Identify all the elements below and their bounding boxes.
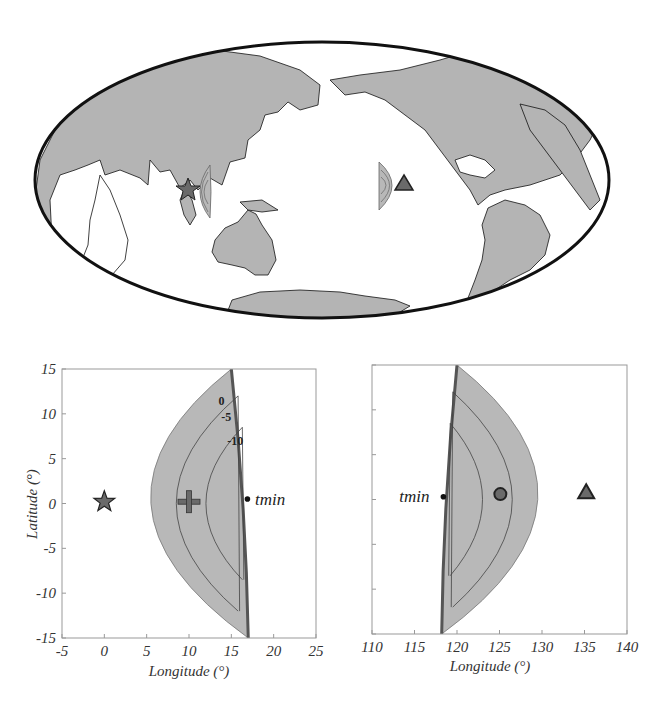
y-tick-label: -5 [44,540,57,556]
right-region [442,365,538,634]
left-plot: -50510152025-15-10-5051015 tmin0-5-10 Lo… [24,361,324,680]
right-annotations: tmin [399,487,429,506]
x-tick-label: 140 [616,639,639,655]
x-tick-label: 15 [224,643,240,659]
x-tick-label: 20 [266,643,282,659]
x-tick-label: 10 [182,643,198,659]
x-tick-label: 5 [143,643,151,659]
tmin-label: tmin [255,490,285,509]
station-triangle-icon [578,484,594,498]
figure: -50510152025-15-10-5051015 tmin0-5-10 Lo… [0,0,662,702]
tmin-point [441,494,447,500]
y-tick-label: -10 [36,585,56,601]
x-tick-label: 115 [404,639,426,655]
x-tick-label: 0 [101,643,109,659]
region-fill [442,365,538,634]
y-tick-label: 5 [49,451,57,467]
y-tick-label: 0 [49,496,57,512]
x-tick-label: 130 [531,639,554,655]
left-ylabel: Latitude (°) [24,469,41,540]
x-tick-label: 120 [446,639,469,655]
x-tick-label: 110 [361,639,383,655]
source-star-icon [94,491,115,511]
x-tick-label: -5 [56,643,69,659]
tmin-label: tmin [399,487,429,506]
tmin-point [245,496,251,502]
right-plot: 110115120125130135140 tmin Longitude (°) [361,365,638,675]
contour-label: 0 [219,394,225,408]
y-tick-label: 15 [41,361,57,377]
right-xlabel: Longitude (°) [449,658,531,675]
left-xlabel: Longitude (°) [148,663,230,680]
x-tick-label: 135 [573,639,596,655]
x-tick-label: 25 [309,643,325,659]
x-tick-label: 125 [488,639,511,655]
world-map [35,42,609,335]
centroid-circle-icon [494,488,506,500]
y-tick-label: 10 [41,406,57,422]
centroid-plus-icon [187,491,192,513]
contour-label: -10 [227,434,243,448]
contour-label: -5 [221,410,231,424]
y-tick-label: -15 [36,630,56,646]
